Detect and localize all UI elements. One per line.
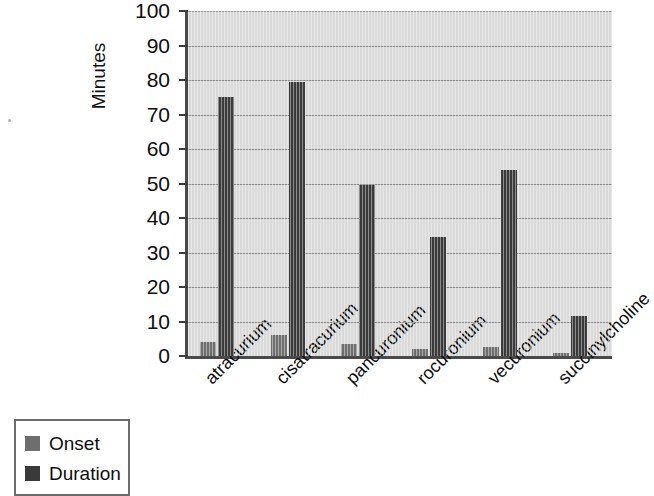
y-tick-label-40: 40 <box>124 207 170 228</box>
y-tick-label-70: 70 <box>124 104 170 125</box>
gridline-20 <box>188 287 612 288</box>
bar-atracurium-onset <box>200 342 216 356</box>
y-tick-label-0: 0 <box>124 345 170 366</box>
y-tick-mark-40 <box>179 217 188 219</box>
y-tick-label-20: 20 <box>124 276 170 297</box>
bar-vecuronium-duration <box>501 170 517 356</box>
gridline-80 <box>188 80 612 81</box>
legend-swatch-duration-icon <box>25 466 40 481</box>
y-tick-label-80: 80 <box>124 69 170 90</box>
y-tick-label-30: 30 <box>124 242 170 263</box>
legend-label: Duration <box>49 464 121 483</box>
chart-legend: OnsetDuration <box>14 419 130 496</box>
gridline-10 <box>188 322 612 323</box>
gridline-100 <box>188 11 612 12</box>
bar-pancuronium-duration <box>359 185 375 356</box>
y-tick-label-60: 60 <box>124 138 170 159</box>
bar-rocuronium-onset <box>412 349 428 356</box>
plot-area <box>185 11 612 359</box>
gridline-90 <box>188 46 612 47</box>
scan-speck <box>8 119 11 122</box>
bar-cisatracurium-duration <box>289 82 305 356</box>
y-tick-mark-60 <box>179 148 188 150</box>
y-tick-label-10: 10 <box>124 311 170 332</box>
gridline-30 <box>188 253 612 254</box>
y-tick-mark-90 <box>179 45 188 47</box>
y-tick-label-100: 100 <box>124 0 170 21</box>
bar-succinylcholine-duration <box>571 316 587 356</box>
y-tick-mark-50 <box>179 183 188 185</box>
y-tick-mark-100 <box>179 10 188 12</box>
bar-pancuronium-onset <box>341 344 357 356</box>
bar-rocuronium-duration <box>430 237 446 356</box>
y-tick-mark-10 <box>179 321 188 323</box>
y-tick-mark-30 <box>179 252 188 254</box>
y-tick-mark-20 <box>179 286 188 288</box>
y-tick-mark-70 <box>179 114 188 116</box>
legend-item-duration[interactable]: Duration <box>25 458 128 488</box>
y-tick-label-50: 50 <box>124 173 170 194</box>
bar-succinylcholine-onset <box>553 353 569 356</box>
bar-atracurium-duration <box>218 97 234 356</box>
bar-vecuronium-onset <box>483 347 499 356</box>
gridline-60 <box>188 149 612 150</box>
y-tick-mark-0 <box>179 355 188 357</box>
bar-cisatracurium-onset <box>271 335 287 356</box>
y-axis-label: Minutes <box>88 6 114 146</box>
y-axis-tick-labels: 1009080706050403020100 <box>124 0 170 370</box>
legend-label: Onset <box>49 434 100 453</box>
legend-item-onset[interactable]: Onset <box>25 428 128 458</box>
gridline-40 <box>188 218 612 219</box>
gridline-50 <box>188 184 612 185</box>
legend-swatch-onset-icon <box>25 436 40 451</box>
y-tick-mark-80 <box>179 79 188 81</box>
gridline-70 <box>188 115 612 116</box>
y-tick-label-90: 90 <box>124 35 170 56</box>
